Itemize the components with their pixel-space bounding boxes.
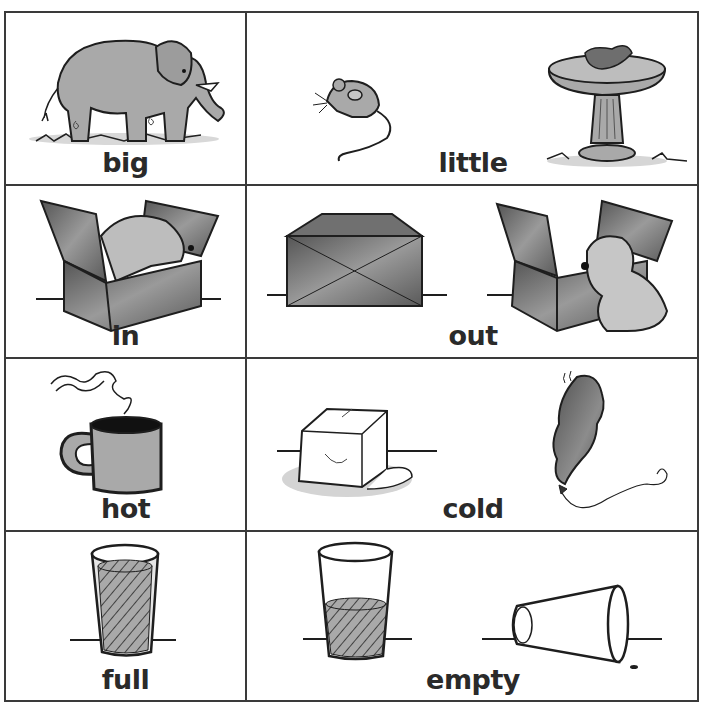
word-label: in — [6, 320, 245, 351]
card-out: out — [247, 186, 699, 357]
card-big: big — [6, 13, 245, 184]
word-label: hot — [6, 493, 245, 524]
word-label: cold — [247, 493, 699, 524]
card-little: little — [247, 13, 699, 184]
card-full: full — [6, 532, 245, 702]
word-label: little — [247, 147, 699, 178]
word-label: out — [247, 320, 699, 351]
word-label: empty — [247, 664, 699, 695]
word-label: full — [6, 664, 245, 695]
word-label: big — [6, 147, 245, 178]
card-hot: hot — [6, 359, 245, 530]
card-cold: cold — [247, 359, 699, 530]
worksheet-grid: big little — [4, 11, 699, 702]
card-empty: empty — [247, 532, 699, 702]
card-in: in — [6, 186, 245, 357]
